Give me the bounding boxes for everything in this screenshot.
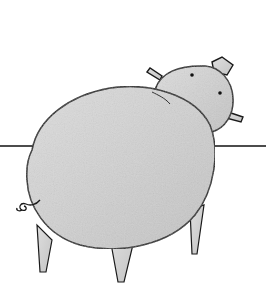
pig-body (27, 87, 215, 249)
pig-eye-left (190, 73, 194, 77)
pig-drawing (0, 0, 266, 288)
pig-illustration (0, 0, 266, 288)
pig-eye-right (218, 91, 222, 95)
